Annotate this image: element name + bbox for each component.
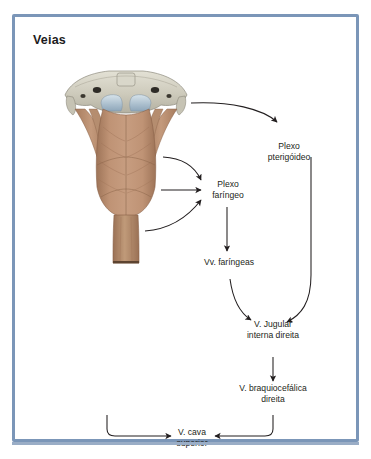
node-label-line2: faríngeo bbox=[212, 190, 244, 200]
node-plexo-pterigoideo: Plexo pterigóideo bbox=[258, 141, 320, 163]
node-label-line2: interna direita bbox=[247, 330, 299, 340]
node-v-cava-superior: V. cava superior bbox=[163, 427, 221, 449]
pharynx-illustration bbox=[61, 65, 191, 275]
node-vv-faringeas: Vv. faríngeas bbox=[191, 257, 267, 268]
arrow-pterigoideo-to-jugular bbox=[287, 157, 311, 322]
node-v-braquiocefalica-direita: V. braquiocefálica direita bbox=[211, 383, 335, 405]
node-label-line1: Vv. faríngeas bbox=[204, 257, 254, 267]
page-title: Veias bbox=[33, 33, 66, 47]
node-label-line1: V. braquiocefálica bbox=[239, 383, 307, 393]
arrow-vvfaringeas-to-jugular bbox=[230, 279, 251, 320]
arrow-braquiocefalica-to-cava bbox=[215, 415, 273, 436]
node-label-line1: Plexo bbox=[217, 179, 239, 189]
arrow-left-to-cava bbox=[107, 415, 171, 436]
node-label-line2: direita bbox=[261, 394, 284, 404]
node-label-line2: pterigóideo bbox=[268, 152, 311, 162]
node-plexo-faringeo: Plexo faríngeo bbox=[197, 179, 259, 201]
node-label-line1: V. cava bbox=[178, 427, 206, 437]
node-label-line2: superior bbox=[176, 438, 207, 448]
esophagus bbox=[113, 215, 139, 263]
arrow-to-plexo-pterigoideo bbox=[191, 103, 277, 122]
skull-base-bone bbox=[65, 71, 187, 115]
pharynx-body bbox=[96, 109, 156, 217]
node-label-line1: Plexo bbox=[278, 141, 300, 151]
veias-panel: Veias bbox=[12, 14, 359, 442]
node-v-jugular-interna-direita: V. Jugular interna direita bbox=[221, 319, 325, 341]
node-label-line1: V. Jugular bbox=[254, 319, 292, 329]
